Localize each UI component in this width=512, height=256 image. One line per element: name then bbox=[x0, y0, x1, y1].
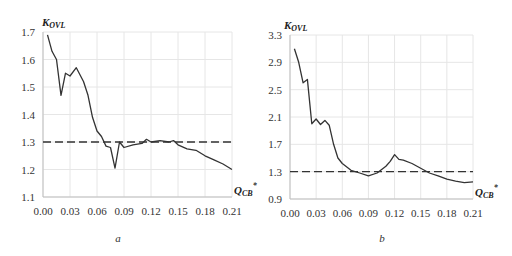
x-tick-label: 0.03 bbox=[60, 205, 80, 217]
x-tick-label: 0.06 bbox=[333, 207, 353, 219]
chart-panel-a: 1.11.21.31.41.51.61.70.000.030.060.090.1… bbox=[21, 16, 257, 244]
x-tick-label: 0.06 bbox=[87, 205, 107, 217]
y-tick-label: 3.3 bbox=[268, 29, 282, 41]
x-tick-label: 0.18 bbox=[437, 207, 457, 219]
y-tick-label: 1.7 bbox=[21, 26, 35, 38]
x-axis-label: QCB* bbox=[234, 181, 258, 198]
x-tick-label: 0.12 bbox=[385, 207, 404, 219]
figure: 1.11.21.31.41.51.61.70.000.030.060.090.1… bbox=[0, 0, 512, 256]
x-axis-label: QCB* bbox=[475, 183, 499, 200]
x-tick-label: 0.00 bbox=[280, 207, 300, 219]
panel-caption: a bbox=[115, 232, 121, 244]
y-tick-label: 0.9 bbox=[268, 193, 282, 205]
y-axis-label: KOVL bbox=[283, 19, 307, 33]
y-tick-label: 1.3 bbox=[21, 136, 35, 148]
y-tick-label: 1.5 bbox=[21, 81, 35, 93]
y-tick-label: 1.7 bbox=[268, 138, 282, 150]
y-tick-label: 1.2 bbox=[21, 164, 35, 176]
x-tick-label: 0.15 bbox=[411, 207, 431, 219]
x-tick-label: 0.18 bbox=[195, 205, 215, 217]
y-tick-label: 2.1 bbox=[268, 111, 282, 123]
x-tick-label: 0.09 bbox=[359, 207, 379, 219]
y-tick-label: 1.3 bbox=[268, 166, 282, 178]
y-tick-label: 1.1 bbox=[21, 191, 35, 203]
x-tick-label: 0.03 bbox=[307, 207, 327, 219]
panel-caption: b bbox=[379, 232, 385, 244]
x-tick-label: 0.00 bbox=[33, 205, 53, 217]
data-line bbox=[294, 49, 473, 183]
y-tick-label: 1.6 bbox=[21, 54, 35, 66]
x-tick-label: 0.21 bbox=[222, 205, 241, 217]
data-line bbox=[48, 35, 233, 170]
gridlines bbox=[290, 35, 473, 199]
x-tick-label: 0.21 bbox=[463, 207, 482, 219]
x-tick-label: 0.15 bbox=[168, 205, 188, 217]
x-tick-label: 0.09 bbox=[114, 205, 134, 217]
y-tick-label: 1.4 bbox=[21, 109, 35, 121]
y-tick-label: 2.5 bbox=[268, 84, 282, 96]
x-tick-label: 0.12 bbox=[141, 205, 160, 217]
chart-panel-b: 0.91.31.72.12.52.93.30.000.030.060.090.1… bbox=[268, 19, 498, 244]
y-axis-label: KOVL bbox=[41, 16, 65, 30]
y-tick-label: 2.9 bbox=[268, 56, 282, 68]
gridlines bbox=[43, 32, 232, 197]
